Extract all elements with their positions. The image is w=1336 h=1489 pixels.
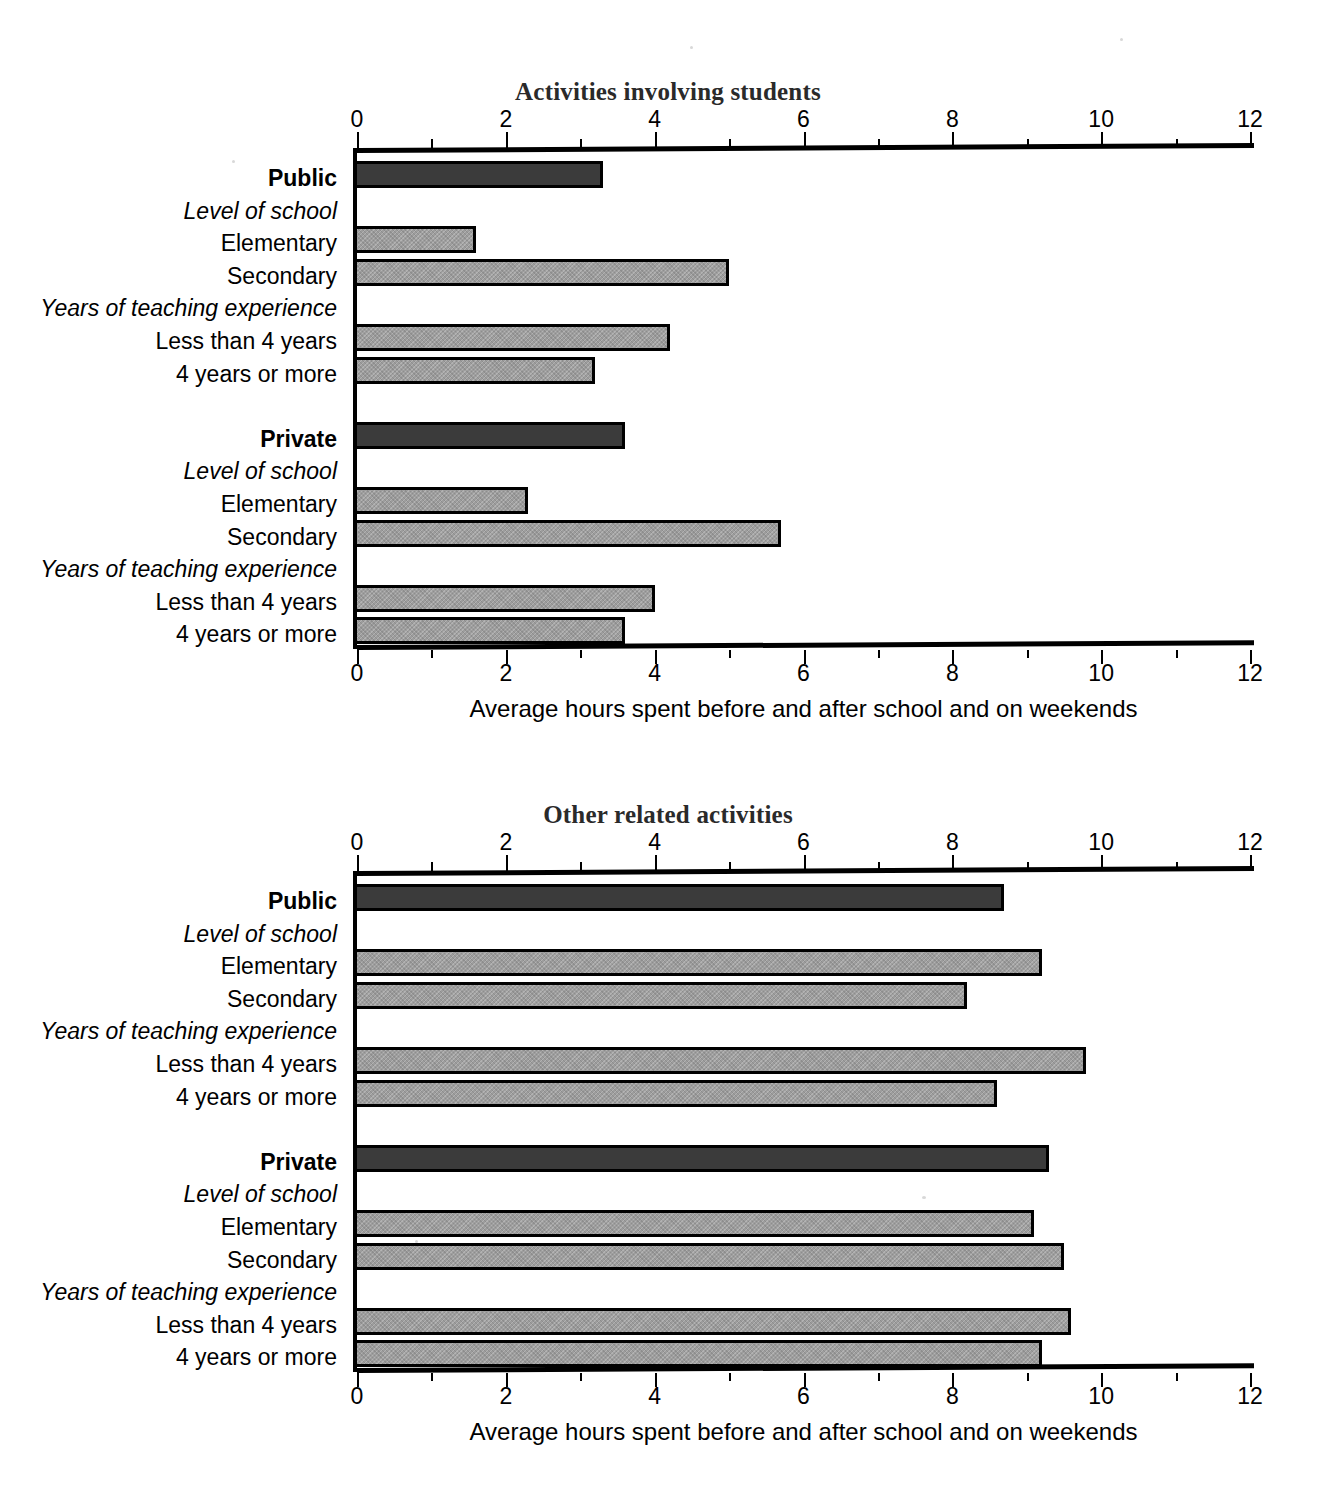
top-tick-label: 8: [946, 106, 959, 132]
row-label-elementary: Elementary: [0, 493, 345, 516]
bar-less-than-4-years: [357, 1047, 1086, 1074]
top-tick-label: 8: [946, 829, 959, 855]
row-label-less-than-4-years: Less than 4 years: [0, 1314, 345, 1337]
bottom-axis-minor-tick: [1027, 1373, 1029, 1381]
row-label-secondary: Secondary: [0, 988, 345, 1011]
bar-secondary: [357, 1243, 1064, 1270]
bottom-axis-minor-tick: [878, 1373, 880, 1381]
row-label-public: Public: [0, 890, 345, 913]
bottom-tick-label: 10: [1088, 660, 1114, 686]
bar-less-than-4-years: [357, 324, 670, 351]
row-label-public: Public: [0, 167, 345, 190]
bottom-axis-minor-tick: [580, 650, 582, 658]
row-label-4-years-or-more: 4 years or more: [0, 1346, 345, 1369]
row-label-less-than-4-years: Less than 4 years: [0, 1053, 345, 1076]
row-label-4-years-or-more: 4 years or more: [0, 1086, 345, 1109]
bottom-axis-minor-tick: [580, 1373, 582, 1381]
bottom-axis-minor-tick: [878, 650, 880, 658]
row-label-secondary: Secondary: [0, 265, 345, 288]
bottom-tick-label: 2: [499, 1383, 512, 1409]
bar-elementary: [357, 487, 528, 514]
top-axis-tick-labels: 024681012: [0, 829, 1336, 855]
top-tick-label: 2: [499, 829, 512, 855]
top-axis-major-tick: [357, 855, 359, 871]
bottom-axis-tick-labels: 024681012: [0, 660, 1336, 686]
bar-4-years-or-more: [357, 1080, 997, 1107]
figure-page: Activities involving students024681012Pu…: [0, 0, 1336, 1489]
bottom-tick-label: 12: [1237, 1383, 1263, 1409]
row-label-private: Private: [0, 428, 345, 451]
row-label-private: Private: [0, 1151, 345, 1174]
top-tick-label: 12: [1237, 106, 1263, 132]
bottom-tick-label: 12: [1237, 660, 1263, 686]
bottom-axis-minor-tick: [729, 650, 731, 658]
bar-4-years-or-more: [357, 1340, 1042, 1367]
bar-elementary: [357, 949, 1042, 976]
top-tick-label: 6: [797, 829, 810, 855]
chart-title: Activities involving students: [0, 78, 1336, 106]
bottom-axis-tick-labels: 024681012: [0, 1383, 1336, 1409]
row-label-4-years-or-more: 4 years or more: [0, 623, 345, 646]
bottom-axis-minor-tick: [431, 1373, 433, 1381]
row-label-4-years-or-more: 4 years or more: [0, 363, 345, 386]
row-label-years-of-teaching-experience: Years of teaching experience: [0, 558, 345, 581]
chart-panel-2: Other related activities024681012PublicL…: [0, 723, 1336, 1446]
top-tick-label: 0: [351, 106, 364, 132]
bar-public: [357, 884, 1004, 911]
bottom-axis-minor-tick: [431, 650, 433, 658]
row-label-secondary: Secondary: [0, 526, 345, 549]
top-axis-major-tick: [506, 855, 508, 871]
top-tick-label: 0: [351, 829, 364, 855]
row-label-level-of-school: Level of school: [0, 1183, 345, 1206]
bar-4-years-or-more: [357, 617, 625, 644]
top-tick-label: 12: [1237, 829, 1263, 855]
top-tick-label: 4: [648, 106, 661, 132]
bar-secondary: [357, 982, 967, 1009]
bottom-tick-label: 4: [648, 660, 661, 686]
row-label-years-of-teaching-experience: Years of teaching experience: [0, 1281, 345, 1304]
bottom-tick-label: 4: [648, 1383, 661, 1409]
row-label-secondary: Secondary: [0, 1249, 345, 1272]
row-label-elementary: Elementary: [0, 1216, 345, 1239]
bar-elementary: [357, 226, 476, 253]
row-label-level-of-school: Level of school: [0, 923, 345, 946]
bar-elementary: [357, 1210, 1034, 1237]
row-label-years-of-teaching-experience: Years of teaching experience: [0, 1020, 345, 1043]
bottom-tick-label: 8: [946, 1383, 959, 1409]
bar-private: [357, 422, 625, 449]
bottom-tick-label: 10: [1088, 1383, 1114, 1409]
top-tick-label: 6: [797, 106, 810, 132]
bar-4-years-or-more: [357, 357, 595, 384]
x-axis-label: Average hours spent before and after sch…: [297, 1418, 1310, 1446]
bar-less-than-4-years: [357, 585, 655, 612]
top-tick-label: 10: [1088, 106, 1114, 132]
bottom-axis-minor-tick: [1176, 1373, 1178, 1381]
category-axis-line: [353, 871, 357, 1372]
bottom-tick-label: 0: [351, 1383, 364, 1409]
top-tick-label: 4: [648, 829, 661, 855]
bar-secondary: [357, 520, 781, 547]
bottom-tick-label: 8: [946, 660, 959, 686]
bottom-axis-minor-tick: [1176, 650, 1178, 658]
chart-panel-1: Activities involving students024681012Pu…: [0, 0, 1336, 723]
top-tick-label: 2: [499, 106, 512, 132]
row-label-level-of-school: Level of school: [0, 200, 345, 223]
chart-title: Other related activities: [0, 801, 1336, 829]
row-label-less-than-4-years: Less than 4 years: [0, 591, 345, 614]
row-label-level-of-school: Level of school: [0, 460, 345, 483]
bottom-tick-label: 2: [499, 660, 512, 686]
top-axis-major-tick: [506, 132, 508, 148]
bar-public: [357, 161, 603, 188]
top-axis-major-tick: [357, 132, 359, 148]
row-label-years-of-teaching-experience: Years of teaching experience: [0, 297, 345, 320]
row-label-elementary: Elementary: [0, 232, 345, 255]
top-tick-label: 10: [1088, 829, 1114, 855]
top-axis-tick-labels: 024681012: [0, 106, 1336, 132]
category-axis-line: [353, 148, 357, 649]
row-label-less-than-4-years: Less than 4 years: [0, 330, 345, 353]
row-label-elementary: Elementary: [0, 955, 345, 978]
bottom-axis-minor-tick: [1027, 650, 1029, 658]
bottom-tick-label: 6: [797, 660, 810, 686]
bar-less-than-4-years: [357, 1308, 1071, 1335]
bottom-tick-label: 6: [797, 1383, 810, 1409]
